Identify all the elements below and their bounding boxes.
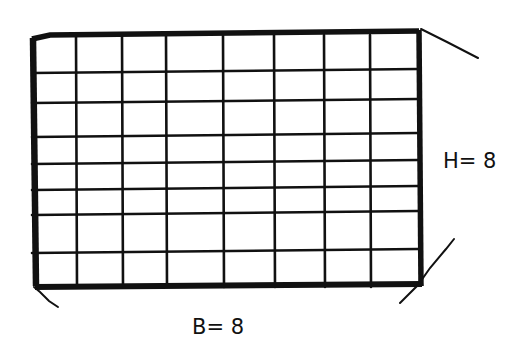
grid-horizontal-line (32, 160, 418, 164)
corner-tick-top-right (421, 29, 478, 58)
grid-horizontal-line (32, 133, 418, 137)
height-label: H= 8 (443, 149, 496, 173)
grid-lines (32, 35, 418, 287)
grid-diagram (0, 0, 525, 355)
corner-tick-bottom-left (34, 287, 58, 307)
grid-horizontal-line (32, 186, 418, 190)
grid-horizontal-line (32, 69, 418, 73)
grid-horizontal-line (32, 99, 418, 103)
base-label: B= 8 (192, 315, 244, 339)
